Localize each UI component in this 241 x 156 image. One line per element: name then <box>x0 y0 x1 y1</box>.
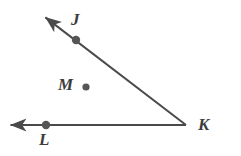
point-L-label: L <box>39 131 49 148</box>
point-M-dot <box>82 83 89 90</box>
point-L-dot <box>42 121 50 129</box>
geometry-figure: J M L K <box>0 0 241 156</box>
point-J-label: J <box>71 11 80 28</box>
point-J-dot <box>72 36 80 44</box>
point-K-label: K <box>198 116 209 133</box>
point-M-label: M <box>58 76 73 93</box>
ray-KJ <box>45 17 186 125</box>
rays-group <box>11 17 187 125</box>
